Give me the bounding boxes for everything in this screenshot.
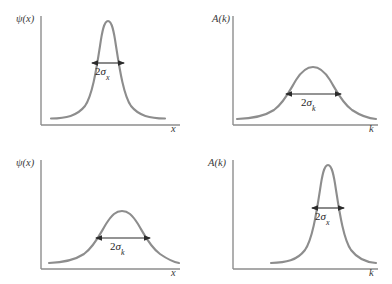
y-axis-label: ψ(x) — [16, 14, 34, 25]
gaussian-curve — [237, 67, 376, 119]
width-arrow — [95, 235, 151, 240]
x-axis-label: x — [171, 268, 176, 279]
y-axis-label: ψ(x) — [16, 158, 34, 169]
panel-bottom-left: ψ(x) x 2σk — [0, 142, 196, 284]
uncertainty-relation-figure: ψ(x) x 2σx A(k) k 2σk — [0, 0, 392, 284]
width-annotation: 2σx — [315, 211, 330, 225]
x-axis-label: k — [369, 124, 374, 135]
width-arrow — [285, 91, 342, 96]
panel-bottom-right: A(k) k 2σx — [196, 142, 392, 284]
x-axis-label: k — [369, 268, 374, 279]
panel-top-right: A(k) k 2σk — [196, 0, 392, 142]
y-axis-label: A(k) — [212, 14, 230, 25]
gaussian-curve — [49, 211, 179, 263]
width-annotation: 2σx — [95, 66, 110, 80]
x-axis-label: x — [171, 124, 176, 135]
width-annotation: 2σk — [110, 241, 125, 255]
panel-top-left: ψ(x) x 2σx — [0, 0, 196, 142]
y-axis-label: A(k) — [208, 158, 226, 169]
width-annotation: 2σk — [301, 97, 316, 111]
